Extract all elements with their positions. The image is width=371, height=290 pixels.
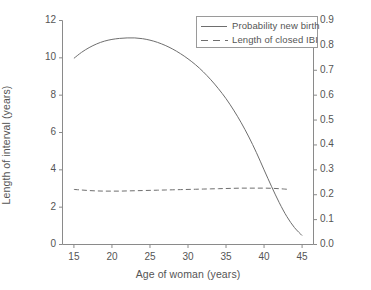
y-tick-label-right: 0.8 xyxy=(320,39,350,50)
y-tick-label-right: 0.6 xyxy=(320,89,350,100)
x-axis-label: Age of woman (years) xyxy=(62,268,314,280)
series-line-length-of-closed-ibi xyxy=(74,188,287,191)
x-tick-label: 45 xyxy=(287,251,317,262)
y-tick-label-right: 0.9 xyxy=(320,14,350,25)
x-tick-label: 40 xyxy=(249,251,279,262)
y-tick-label-right: 0.5 xyxy=(320,114,350,125)
legend-item-probability-new-birth: Probability new birth xyxy=(201,18,320,33)
y-tick-label-left: 8 xyxy=(30,89,56,100)
y-axis-label-left: Length of interval (years) xyxy=(0,0,18,290)
chart-figure: Length of interval (years) Probability o… xyxy=(0,0,371,290)
x-tick-label: 35 xyxy=(211,251,241,262)
y-tick-label-left: 4 xyxy=(30,163,56,174)
x-tick-label: 20 xyxy=(97,251,127,262)
legend-label: Length of closed IBI xyxy=(232,34,318,45)
legend-swatch-solid-icon xyxy=(201,21,227,31)
y-tick-label-left: 6 xyxy=(30,126,56,137)
y-tick-label-right: 0.3 xyxy=(320,163,350,174)
y-tick-label-left: 0 xyxy=(30,238,56,249)
y-tick-label-left: 2 xyxy=(30,201,56,212)
series-line-probability-new-birth xyxy=(74,38,302,236)
x-tick-label: 30 xyxy=(173,251,203,262)
y-tick-label-right: 0.2 xyxy=(320,188,350,199)
legend-item-length-of-closed-ibi: Length of closed IBI xyxy=(201,32,318,47)
y-tick-label-right: 0.4 xyxy=(320,138,350,149)
y-tick-label-right: 0.7 xyxy=(320,64,350,75)
y-tick-label-left: 12 xyxy=(30,14,56,25)
x-tick-label: 15 xyxy=(59,251,89,262)
legend-label: Probability new birth xyxy=(232,20,320,31)
chart-legend: Probability new birth Length of closed I… xyxy=(196,16,318,48)
x-tick-label: 25 xyxy=(135,251,165,262)
y-tick-label-left: 10 xyxy=(30,51,56,62)
legend-swatch-dashed-icon xyxy=(201,35,227,45)
y-tick-label-right: 0.1 xyxy=(320,213,350,224)
y-tick-label-right: 0.0 xyxy=(320,238,350,249)
